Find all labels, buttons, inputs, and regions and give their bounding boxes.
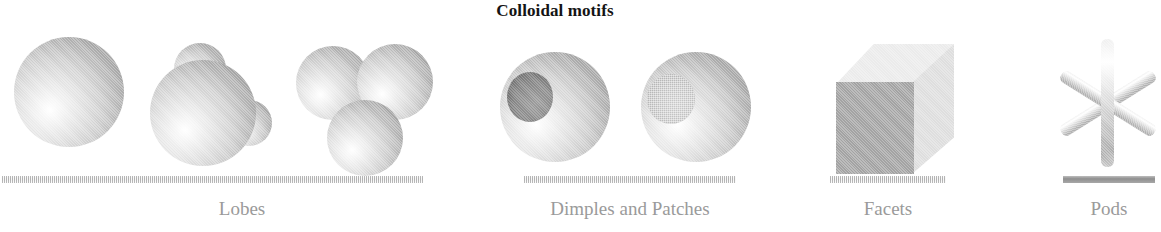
colloidal-motifs-figure: Colloidal motifs Lobes bbox=[0, 0, 1161, 232]
cube-face-front bbox=[836, 82, 914, 174]
substrate-pods bbox=[1063, 176, 1155, 183]
lobe-core-sphere bbox=[150, 60, 256, 166]
pod-arm-vertical bbox=[1101, 39, 1114, 167]
motif-label-lobes: Lobes bbox=[172, 198, 312, 220]
motif-label-pods: Pods bbox=[1059, 198, 1159, 220]
six-arm-star-particle bbox=[1055, 42, 1159, 168]
patch-region bbox=[647, 74, 695, 124]
substrate-dimples-and-patches bbox=[524, 176, 736, 183]
cube-particle bbox=[830, 44, 955, 169]
motif-label-dimples-and-patches: Dimples and Patches bbox=[510, 198, 750, 220]
motif-label-facets: Facets bbox=[833, 198, 943, 220]
patched-sphere-particle bbox=[641, 52, 751, 162]
single-sphere-particle bbox=[14, 37, 124, 147]
figure-title: Colloidal motifs bbox=[0, 1, 1110, 21]
dimpled-sphere-particle bbox=[500, 52, 610, 162]
dimple-cavity bbox=[507, 72, 553, 122]
trimer-sphere-bottom bbox=[327, 100, 403, 176]
substrate-lobes bbox=[2, 176, 423, 183]
substrate-facets bbox=[830, 176, 946, 183]
